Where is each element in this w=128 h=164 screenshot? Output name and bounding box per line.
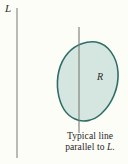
- region-label-R: R: [97, 72, 103, 82]
- region-R-shape: [57, 42, 118, 121]
- figure-container: L R Typical line parallel to L.: [0, 0, 128, 164]
- caption-line-2-suffix: .: [112, 142, 114, 152]
- caption-line-2-prefix: parallel to: [65, 142, 107, 152]
- figure-caption: Typical line parallel to L.: [52, 131, 128, 153]
- caption-line-2: parallel to L.: [52, 142, 128, 153]
- caption-line-1: Typical line: [52, 131, 128, 142]
- line-label-L: L: [5, 3, 11, 14]
